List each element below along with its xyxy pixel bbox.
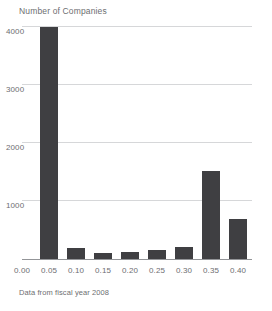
xtick-label-0.20: 0.20: [122, 266, 138, 275]
ytick-label-3000: 3000: [6, 85, 24, 94]
bar-0.20: [121, 252, 139, 259]
xtick-label-0.00: 0.00: [14, 266, 30, 275]
bar-chart: Number of Companies 4000 3000 2000 1000 …: [0, 0, 272, 311]
xtick-label-0.15: 0.15: [95, 266, 111, 275]
bar-0.40: [229, 219, 247, 259]
xtick-label-0.25: 0.25: [149, 266, 165, 275]
bar-0.25: [148, 250, 166, 259]
xtick-label-0.40: 0.40: [230, 266, 246, 275]
bar-0.05: [40, 27, 58, 259]
chart-caption: Data from fiscal year 2008: [19, 288, 109, 297]
xtick-label-0.35: 0.35: [203, 266, 219, 275]
ytick-label-2000: 2000: [6, 143, 24, 152]
plot-area: [22, 26, 252, 259]
ytick-label-4000: 4000: [6, 27, 24, 36]
ytick-label-1000: 1000: [6, 201, 24, 210]
xtick-label-0.10: 0.10: [68, 266, 84, 275]
bar-0.30: [175, 247, 193, 259]
xtick-label-0.05: 0.05: [41, 266, 57, 275]
xtick-label-0.30: 0.30: [176, 266, 192, 275]
bar-0.15: [94, 253, 112, 259]
bar-0.10: [67, 248, 85, 259]
chart-title: Number of Companies: [19, 6, 107, 16]
bar-0.35: [202, 171, 220, 259]
x-axis-line: [22, 259, 252, 260]
